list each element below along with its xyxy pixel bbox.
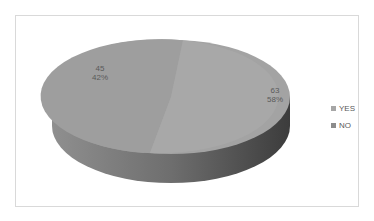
legend-item-yes[interactable]: YES: [331, 100, 355, 117]
legend-label-no: NO: [339, 121, 351, 130]
data-label-yes: 63 58%: [264, 86, 286, 104]
chart-legend: YES NO: [331, 100, 355, 134]
legend-item-no[interactable]: NO: [331, 117, 355, 134]
data-label-no: 45 42%: [90, 64, 110, 82]
legend-label-yes: YES: [339, 104, 355, 113]
data-label-no-percent: 42%: [90, 73, 110, 82]
data-label-no-value: 45: [90, 64, 110, 73]
data-label-yes-percent: 58%: [264, 95, 286, 104]
legend-swatch-no-icon: [331, 123, 336, 128]
data-label-yes-value: 63: [264, 86, 286, 95]
legend-swatch-yes-icon: [331, 106, 336, 111]
pie-chart-3d: [0, 0, 374, 221]
